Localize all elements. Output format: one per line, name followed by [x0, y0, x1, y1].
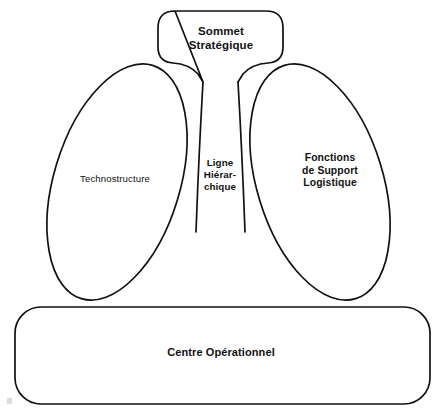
operating-core-shape	[15, 307, 430, 404]
logistics-support-ellipse	[224, 47, 416, 317]
hierarchy-line-left-edge	[196, 82, 203, 232]
organization-diagram: Sommet Stratégique Technostructure Ligne…	[0, 0, 443, 417]
scan-artifact	[7, 398, 12, 404]
diagram-shapes	[0, 0, 443, 417]
strategic-apex-shape	[158, 11, 283, 82]
hierarchy-line-right-edge	[238, 82, 245, 232]
technostructure-ellipse	[21, 47, 213, 317]
